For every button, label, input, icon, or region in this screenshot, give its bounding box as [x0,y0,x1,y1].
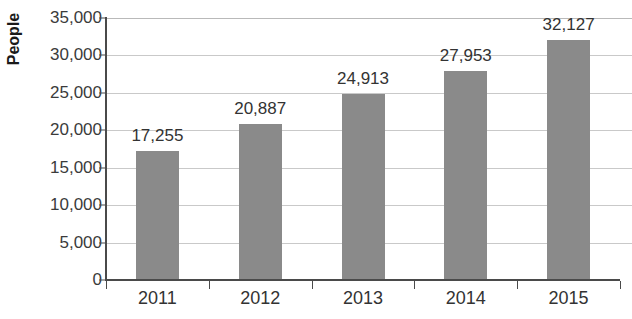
bar-value-label: 24,913 [337,69,389,89]
y-axis-tick-label: 30,000 [22,45,102,65]
bar-value-label: 32,127 [543,15,595,35]
x-axis-tick-mark [620,281,621,289]
y-axis-tick-label: 25,000 [22,83,102,103]
x-axis-tick-mark [517,281,518,289]
x-axis-category-label: 2012 [240,288,280,309]
y-axis-tick-mark [99,130,107,131]
bar [444,71,487,280]
x-axis-line [106,279,620,281]
x-axis-tick-mark [312,281,313,289]
plot-area [106,18,620,280]
y-axis-tick-mark [99,18,107,19]
bar-value-label: 27,953 [440,46,492,66]
bar-value-label: 20,887 [234,99,286,119]
x-axis-category-label: 2011 [138,288,177,309]
x-axis-category-label: 2015 [549,288,589,309]
y-axis-tick-mark [99,55,107,56]
x-axis-tick-mark [106,281,107,289]
bar [136,151,179,280]
y-axis-tick-label: 0 [22,270,102,290]
y-axis-title-label: People [5,13,23,65]
y-axis-tick-label: 5,000 [22,233,102,253]
y-axis-tick-mark [99,242,107,243]
y-axis-tick-labels: 05,00010,00015,00020,00025,00030,00035,0… [22,0,102,319]
y-axis-tick-label: 35,000 [22,8,102,28]
y-axis-tick-label: 20,000 [22,120,102,140]
y-axis-tick-mark [99,92,107,93]
bar-chart: People 05,00010,00015,00020,00025,00030,… [0,0,632,319]
x-axis-tick-mark [209,281,210,289]
x-axis-category-label: 2013 [343,288,383,309]
y-axis-tick-mark [99,205,107,206]
bar [239,124,282,280]
y-axis-tick-label: 10,000 [22,195,102,215]
y-axis-tick-label: 15,000 [22,158,102,178]
y-axis-tick-mark [99,167,107,168]
x-axis-tick-mark [414,281,415,289]
bar [547,40,590,280]
bar-value-label: 17,255 [131,126,183,146]
bar [342,94,385,280]
x-axis-category-label: 2014 [446,288,486,309]
